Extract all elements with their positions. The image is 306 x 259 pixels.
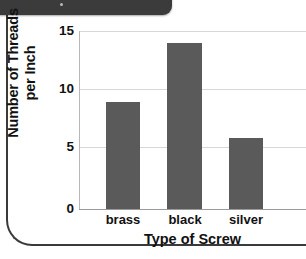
x-tick-label-silver: silver [211,212,281,227]
x-tick-label-brass: brass [88,212,158,227]
y-axis-line [79,31,80,210]
y-tick-label-0: 0 [48,201,74,216]
y-axis-title-line-2: per Inch [22,0,39,161]
x-axis-title: Type of Screw [79,231,306,247]
bar-brass[interactable] [106,102,140,209]
bar-silver[interactable] [229,138,263,209]
y-tick-label-5: 5 [48,139,74,154]
y-tick-label-15: 15 [48,23,74,38]
x-tick-label-black: black [150,212,220,227]
bar-chart: Number of Threads per Inch 15 10 5 0 bra… [0,0,306,259]
y-axis-title-line-1: Number of Threads [5,0,22,161]
gridline-15 [79,31,306,32]
x-axis-line [79,209,306,210]
bar-black[interactable] [167,43,202,209]
y-tick-label-10: 10 [48,81,74,96]
y-axis-title: Number of Threads per Inch [5,0,39,161]
chart-page: Number of Threads per Inch 15 10 5 0 bra… [0,0,306,259]
